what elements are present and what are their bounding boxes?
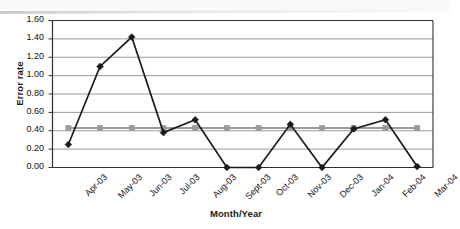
- series-target-marker: [224, 125, 229, 130]
- series-target-marker: [97, 125, 102, 130]
- series-error-rate-line: [68, 37, 417, 167]
- series-target-marker: [129, 125, 134, 130]
- series-error-rate-marker: [65, 141, 72, 148]
- series-target-marker: [415, 125, 420, 130]
- series-target-marker: [383, 125, 388, 130]
- series-target-marker: [319, 125, 324, 130]
- series-target-marker: [66, 125, 71, 130]
- series-target-marker: [256, 125, 261, 130]
- series-target-marker: [193, 125, 198, 130]
